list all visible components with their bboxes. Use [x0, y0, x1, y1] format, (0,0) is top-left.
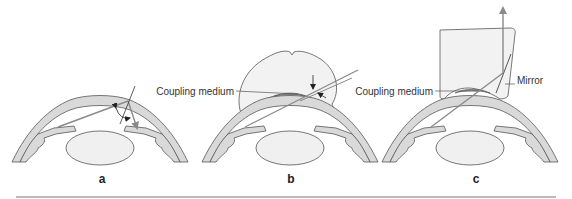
panel-a — [12, 86, 188, 165]
panel-label-b: b — [287, 172, 294, 186]
panel-label-a: a — [99, 172, 106, 186]
gonioscopy-diagram: Coupling medium Coupling medium Mirror a… — [0, 0, 572, 199]
eye-cross-section — [12, 96, 188, 166]
panel-c: Coupling medium Mirror — [355, 8, 558, 165]
eye-cross-section — [202, 96, 378, 166]
divider — [16, 196, 556, 198]
mirror-label: Mirror — [517, 75, 544, 86]
eye-cross-section — [382, 96, 558, 166]
panel-b: Coupling medium — [156, 51, 378, 165]
coupling-medium-label: Coupling medium — [156, 86, 234, 97]
goniolens — [440, 28, 515, 99]
panel-label-c: c — [473, 172, 480, 186]
coupling-medium-label: Coupling medium — [355, 86, 433, 97]
